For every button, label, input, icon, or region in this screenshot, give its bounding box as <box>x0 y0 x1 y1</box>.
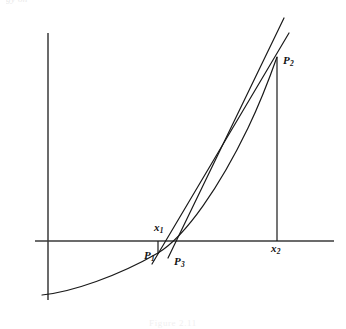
function-curve <box>42 57 277 295</box>
secant-line-p3-p2 <box>168 18 284 258</box>
